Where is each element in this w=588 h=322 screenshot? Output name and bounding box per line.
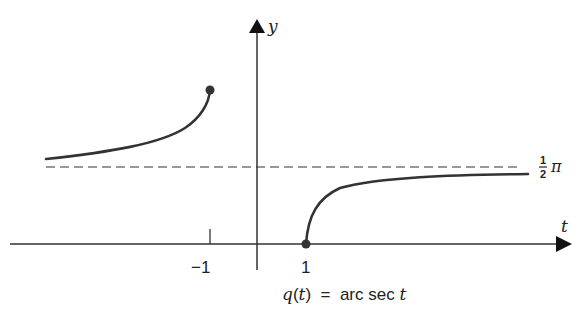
t-axis-label: t	[561, 216, 568, 236]
arcsec-plot: y t −1 1 1 2 π	[0, 0, 588, 322]
half-denominator: 2	[540, 168, 546, 180]
left-endpoint-dot	[206, 86, 215, 95]
pi-symbol: π	[550, 157, 562, 176]
caption-rhs-var: t	[399, 284, 406, 304]
y-axis-label: y	[267, 16, 278, 36]
caption-rhs: arc sec	[340, 285, 400, 304]
caption-func: q	[282, 284, 293, 304]
right-endpoint-dot	[302, 240, 311, 249]
tick-label-1: 1	[301, 258, 310, 277]
caption: q(t) = arc sec t	[282, 284, 406, 305]
tick-label-neg1: −1	[191, 258, 210, 277]
left-branch-curve	[46, 90, 210, 159]
y-axis-arrow-icon	[249, 19, 265, 33]
t-axis-arrow-icon	[556, 236, 572, 252]
right-branch-curve	[306, 174, 528, 244]
caption-var: t	[299, 284, 306, 304]
half-numerator: 1	[540, 154, 546, 166]
